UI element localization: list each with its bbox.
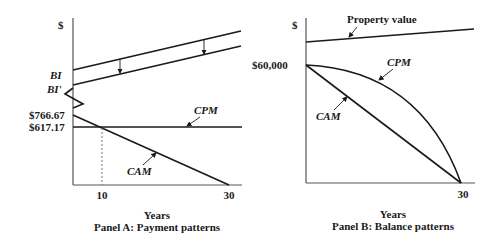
cam-start-value: $766.67 [29, 109, 65, 121]
cam-balance-label: CAM [316, 110, 342, 122]
property-value-line [306, 29, 474, 42]
x-tick-30: 30 [458, 188, 470, 200]
cpm-label: CPM [194, 104, 219, 116]
cam-balance-line [306, 65, 461, 183]
cpm-pointer-arrow [187, 117, 200, 126]
panel-a-y-axis-label: $ [58, 19, 64, 31]
panel-a-x-axis-label: Years [144, 209, 171, 221]
cpm-balance-label: CPM [387, 56, 412, 68]
x-tick-10: 10 [97, 189, 109, 201]
cam-label: CAM [127, 165, 153, 177]
panel-a-caption: Panel A: Payment patterns [94, 221, 221, 233]
panel-a-payment-patterns: $ BI BI' $766.67 $617.17 CPM CAM 10 30 Y [29, 18, 242, 233]
bi-label: BI [49, 69, 62, 81]
cpm-balance-pointer-arrow [379, 69, 393, 80]
property-value-label: Property value [347, 13, 417, 25]
bi-prime-line [73, 46, 241, 85]
bi-prime-label: BI' [46, 83, 62, 95]
diagram-canvas: $ BI BI' $766.67 $617.17 CPM CAM 10 30 Y [0, 0, 494, 245]
panel-b-x-axis-label: Years [380, 208, 407, 220]
bi-line [73, 31, 241, 70]
cam-pointer-arrow [143, 153, 156, 165]
cam-balance-pointer-arrow [334, 97, 347, 110]
axis-break-icon [65, 88, 83, 108]
panel-b-caption: Panel B: Balance patterns [332, 220, 455, 232]
panel-b-y-axis-label: $ [292, 19, 298, 31]
x-tick-30: 30 [224, 189, 236, 201]
panel-b-balance-patterns: $ Property value $60,000 CPM CAM 30 Year… [252, 13, 475, 232]
cpm-level-value: $617.17 [29, 121, 65, 133]
property-value-pointer-arrow [349, 27, 357, 37]
start-balance-value: $60,000 [252, 59, 288, 71]
